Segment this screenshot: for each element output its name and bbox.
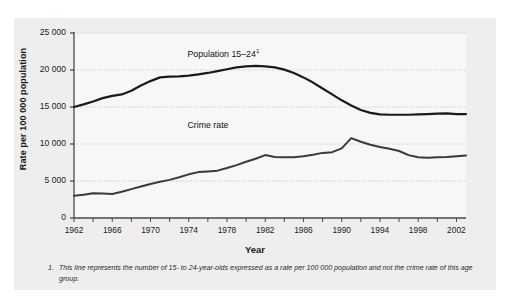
y-tick-label: 20 000 (18, 64, 66, 74)
series-annotation-text: Population 15–24 (187, 49, 255, 59)
y-tick-label: 15 000 (18, 101, 66, 111)
x-tick-label: 1974 (169, 225, 209, 235)
y-tick-label: 0 (18, 212, 66, 222)
x-tick-label: 1994 (360, 225, 400, 235)
y-tick-label: 10 000 (18, 138, 66, 148)
x-tick-label: 1986 (283, 225, 323, 235)
y-tick-label: 5 000 (18, 175, 66, 185)
x-tick-label: 1990 (322, 225, 362, 235)
x-tick-label: 1970 (130, 225, 170, 235)
line-chart-svg (0, 0, 510, 305)
x-tick-label: 2002 (436, 225, 476, 235)
series-annotation-superscript: 1 (256, 48, 259, 54)
x-tick-label: 1962 (54, 225, 94, 235)
series-annotation-text: Crime rate (187, 120, 228, 130)
footnote-number: 1. (48, 263, 54, 274)
x-tick-label: 1966 (92, 225, 132, 235)
footnote: 1. This line represents the number of 15… (48, 263, 478, 285)
x-tick-label: 1998 (398, 225, 438, 235)
chart-plot-area: Rate per 100 000 population Year 25 0002… (0, 0, 510, 305)
x-tick-label: 1982 (245, 225, 285, 235)
y-tick-label: 25 000 (18, 27, 66, 37)
x-tick-label: 1978 (207, 225, 247, 235)
series-annotation-2: Crime rate (187, 120, 228, 130)
series-annotation-1: Population 15–241 (187, 48, 259, 59)
plot-background (74, 33, 466, 218)
footnote-text: This line represents the number of 15- t… (48, 263, 478, 285)
